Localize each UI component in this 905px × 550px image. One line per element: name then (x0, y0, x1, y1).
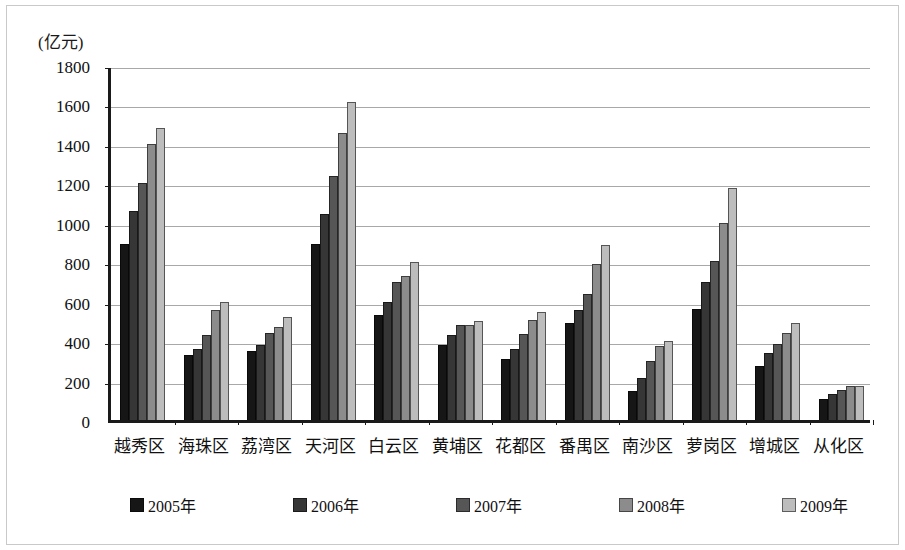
bar-group (238, 68, 302, 420)
bar[interactable] (646, 361, 655, 420)
bar[interactable] (728, 188, 737, 420)
bar[interactable] (855, 386, 864, 421)
legend-label: 2009年 (800, 493, 848, 517)
x-tick-label: 海珠区 (178, 432, 229, 457)
bar[interactable] (537, 312, 546, 420)
bar[interactable] (401, 276, 410, 420)
legend-item[interactable]: 2009年 (782, 493, 848, 517)
bar[interactable] (220, 302, 229, 420)
bar-group-bars (429, 68, 493, 420)
x-tick-label: 萝岗区 (686, 432, 737, 457)
bar[interactable] (347, 102, 356, 420)
legend-label: 2006年 (311, 493, 359, 517)
chart-figure: (亿元) 020040060080010001200140016001800 越… (0, 0, 905, 550)
x-tick-label: 白云区 (368, 432, 419, 457)
bar[interactable] (410, 262, 419, 420)
bar[interactable] (193, 349, 202, 420)
plot-area (108, 68, 870, 423)
bar[interactable] (129, 211, 138, 420)
legend-label: 2008年 (637, 493, 685, 517)
y-tick-label: 800 (65, 255, 91, 275)
x-tick-label: 越秀区 (114, 432, 165, 457)
bar[interactable] (265, 333, 274, 420)
bar[interactable] (256, 345, 265, 420)
legend-item[interactable]: 2005年 (130, 493, 196, 517)
bar[interactable] (247, 351, 256, 420)
bar[interactable] (664, 341, 673, 420)
bar[interactable] (156, 128, 165, 420)
bar[interactable] (510, 349, 519, 420)
bar[interactable] (592, 264, 601, 420)
x-tick-mark (365, 420, 366, 425)
bar-group (365, 68, 429, 420)
bar[interactable] (202, 335, 211, 420)
bar-group-bars (619, 68, 683, 420)
legend-swatch (782, 498, 796, 512)
legend-item[interactable]: 2006年 (293, 493, 359, 517)
bar[interactable] (138, 183, 147, 420)
y-tick-label: 0 (82, 413, 91, 433)
bar[interactable] (601, 245, 610, 420)
bar[interactable] (474, 321, 483, 420)
bar[interactable] (637, 378, 646, 420)
legend-label: 2005年 (148, 493, 196, 517)
bar[interactable] (184, 355, 193, 420)
bar[interactable] (583, 294, 592, 420)
bar-group (556, 68, 620, 420)
bar[interactable] (519, 334, 528, 420)
y-tick-label: 600 (65, 295, 91, 315)
bar[interactable] (329, 176, 338, 420)
bar[interactable] (374, 315, 383, 421)
x-tick-label: 荔湾区 (241, 432, 292, 457)
legend-item[interactable]: 2007年 (456, 493, 522, 517)
bar[interactable] (755, 366, 764, 420)
legend-swatch (456, 498, 470, 512)
bar[interactable] (655, 346, 664, 420)
bar-group-bars (111, 68, 175, 420)
bar[interactable] (147, 144, 156, 420)
bar[interactable] (320, 214, 329, 420)
bar[interactable] (846, 386, 855, 420)
bar[interactable] (773, 344, 782, 420)
x-tick-label: 黄埔区 (432, 432, 483, 457)
y-tick-label: 400 (65, 334, 91, 354)
bar[interactable] (338, 133, 347, 420)
bar[interactable] (764, 353, 773, 420)
bar-group (746, 68, 810, 420)
bar[interactable] (465, 325, 474, 420)
bar-group-bars (492, 68, 556, 420)
bar[interactable] (719, 223, 728, 420)
bar[interactable] (311, 244, 320, 420)
bar[interactable] (456, 325, 465, 420)
bar[interactable] (819, 399, 828, 420)
x-tick-mark (556, 420, 557, 425)
y-tick-label: 1200 (56, 176, 90, 196)
bar[interactable] (710, 261, 719, 420)
legend-item[interactable]: 2008年 (619, 493, 685, 517)
bar[interactable] (828, 394, 837, 420)
bar-group (492, 68, 556, 420)
bar[interactable] (283, 317, 292, 420)
bar[interactable] (782, 333, 791, 420)
bar[interactable] (120, 244, 129, 420)
bar[interactable] (392, 282, 401, 420)
bar[interactable] (211, 310, 220, 420)
bar[interactable] (274, 327, 283, 420)
bar[interactable] (628, 391, 637, 420)
bar[interactable] (574, 310, 583, 420)
bar[interactable] (565, 323, 574, 420)
bar[interactable] (501, 359, 510, 420)
bar[interactable] (692, 309, 701, 420)
legend-swatch (293, 498, 307, 512)
bar[interactable] (701, 282, 710, 420)
bar[interactable] (383, 302, 392, 420)
bar[interactable] (791, 323, 800, 420)
x-tick-mark (619, 420, 620, 425)
x-tick-mark (492, 420, 493, 425)
bar[interactable] (447, 335, 456, 420)
x-tick-label: 南沙区 (622, 432, 673, 457)
bar[interactable] (837, 390, 846, 420)
bar[interactable] (528, 320, 537, 420)
bar[interactable] (438, 345, 447, 420)
x-tick-label: 花都区 (495, 432, 546, 457)
